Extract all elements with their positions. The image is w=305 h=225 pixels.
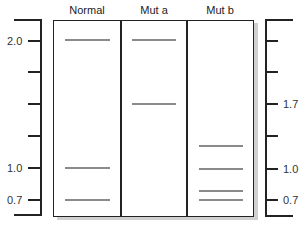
band-mut-a-2-0 <box>132 39 176 41</box>
left-tick-label-0-7: 0.7 <box>7 194 22 206</box>
lane-label-mut-b: Mut b <box>187 4 253 16</box>
band-normal-0-7 <box>65 199 110 201</box>
gel-box <box>53 20 254 217</box>
right-tick-label-0-7: 0.7 <box>283 194 298 206</box>
band-mut-a-1-7 <box>132 103 176 105</box>
right-tick-label-1-7: 1.7 <box>283 98 298 110</box>
right-tick-label-1-0: 1.0 <box>283 163 298 175</box>
band-normal-2-0 <box>65 39 110 41</box>
left-tick-label-2-0: 2.0 <box>7 35 22 47</box>
band-mut-b-1-0 <box>199 168 243 170</box>
left-tick-label-1-0: 1.0 <box>7 162 22 174</box>
band-mut-b-0-8 <box>199 190 243 192</box>
lane-label-normal: Normal <box>54 4 120 16</box>
lane-divider-2 <box>186 20 188 217</box>
lane-label-mut-a: Mut a <box>121 4 187 16</box>
band-mut-b-1-3 <box>199 145 243 147</box>
band-normal-1-0 <box>65 167 110 169</box>
lane-divider-1 <box>120 20 122 217</box>
band-mut-b-0-7 <box>199 199 243 201</box>
